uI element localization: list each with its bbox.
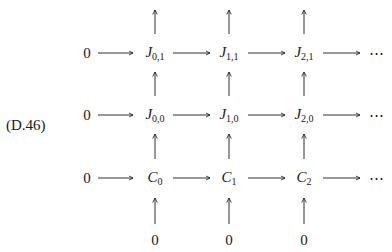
node-subscript: 2,0 (301, 113, 314, 124)
node-base: J (294, 106, 301, 122)
node-base: C (221, 169, 231, 185)
node-base: C (296, 169, 306, 185)
ellipsis: ⋯ (369, 171, 384, 186)
zero-node: 0 (300, 233, 308, 248)
node-subscript: 1 (232, 176, 237, 187)
node-J00: J0,0 (145, 107, 164, 124)
node-C2: C2 (296, 170, 311, 187)
zero-node: 0 (83, 171, 91, 186)
node-J01: J0,1 (145, 45, 164, 62)
node-C1: C1 (221, 170, 236, 187)
node-base: C (147, 169, 157, 185)
zero-node: 0 (225, 233, 233, 248)
node-J21: J2,1 (294, 45, 313, 62)
node-subscript: 0 (158, 176, 163, 187)
node-base: J (145, 106, 152, 122)
node-C0: C0 (147, 170, 162, 187)
node-base: J (294, 44, 301, 60)
node-J10: J1,0 (219, 107, 238, 124)
node-base: J (219, 44, 226, 60)
node-subscript: 2 (307, 176, 312, 187)
node-J11: J1,1 (219, 45, 238, 62)
diagram-arrows (0, 0, 392, 252)
node-subscript: 1,0 (226, 113, 239, 124)
node-subscript: 0,0 (152, 113, 165, 124)
node-subscript: 0,1 (152, 51, 165, 62)
node-base: J (145, 44, 152, 60)
node-subscript: 2,1 (301, 51, 314, 62)
ellipsis: ⋯ (369, 108, 384, 123)
node-subscript: 1,1 (226, 51, 239, 62)
zero-node: 0 (151, 233, 159, 248)
node-base: J (219, 106, 226, 122)
ellipsis: ⋯ (369, 46, 384, 61)
zero-node: 0 (83, 108, 91, 123)
zero-node: 0 (83, 46, 91, 61)
node-J20: J2,0 (294, 107, 313, 124)
